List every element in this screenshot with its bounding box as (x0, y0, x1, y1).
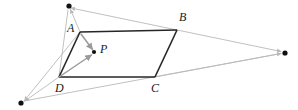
top-vanishing-point-dot (66, 3, 71, 8)
right-vanishing-point-dot (282, 50, 287, 55)
vertex-label-A: A (67, 22, 74, 34)
edge-A-B (80, 30, 177, 32)
edge-B-C (155, 30, 177, 77)
geometry-figure: A B C D P (0, 0, 298, 110)
diagram-canvas (0, 0, 298, 110)
vertex-label-C: C (151, 82, 159, 94)
vertex-label-B: B (179, 11, 186, 23)
vector-A-to-P (81, 34, 93, 50)
line-B-to-right-vanishing-point (177, 30, 281, 52)
interior-point-P-dot (92, 50, 96, 54)
bottom-left-vanishing-point-dot (18, 100, 23, 105)
vertex-label-D: D (55, 82, 64, 94)
line-B-to-top-vanishing-point (71, 8, 177, 30)
line-A-to-bottom-left-vanishing-point (25, 32, 81, 101)
parallelogram-ABCD (59, 30, 177, 77)
interior-point-label-P: P (100, 43, 107, 55)
